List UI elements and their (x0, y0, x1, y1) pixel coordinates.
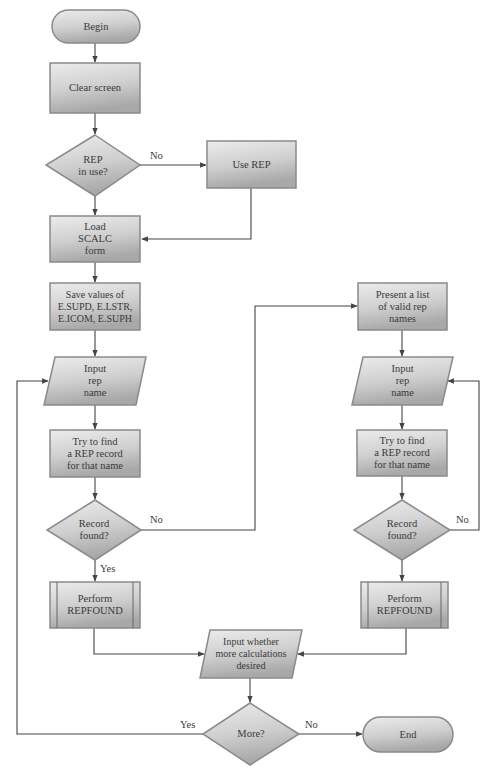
clear-screen-box (50, 63, 140, 113)
begin-terminator (52, 10, 140, 43)
edge-userep-load (142, 188, 251, 239)
edge-recordright-inputright (448, 381, 479, 530)
try-find-right-box (357, 430, 447, 476)
try-find-left-box (50, 430, 140, 477)
present-list-box (358, 283, 447, 330)
more-diamond (203, 703, 299, 765)
edge-label-record-left-no: No (150, 514, 163, 525)
rep-in-use-diamond (46, 135, 140, 196)
record-found-right-diamond (354, 500, 450, 560)
perform-left-box (50, 582, 140, 628)
shapes (44, 10, 453, 765)
flowchart-canvas (0, 0, 490, 781)
edge-performleft-inputmore (94, 628, 204, 654)
perform-right-box (361, 582, 448, 628)
edge-label-more-no: No (305, 719, 318, 730)
edge-label-more-yes: Yes (180, 719, 195, 730)
record-found-left-diamond (47, 500, 141, 560)
save-values-box (50, 283, 140, 330)
use-rep-box (207, 141, 296, 188)
input-rep-left-parallelogram (44, 357, 146, 405)
edge-label-record-left-yes: Yes (100, 563, 115, 574)
edge-label-record-right-no: No (456, 514, 469, 525)
input-rep-right-parallelogram (352, 357, 453, 405)
load-form-box (50, 216, 140, 262)
edge-performright-inputmore (298, 628, 406, 654)
edge-record-present (141, 306, 357, 530)
input-more-parallelogram (200, 630, 302, 678)
end-terminator (363, 717, 453, 752)
edge-label-rep-in-use-no: No (150, 150, 163, 161)
